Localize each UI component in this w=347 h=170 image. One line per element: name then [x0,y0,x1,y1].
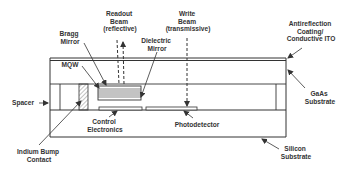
slm-cross-section-diagram: Readout Beam (reflective) Write Beam (tr… [0,0,347,170]
photodetector-label: Photodetector [175,121,220,128]
spacer-label: Spacer [12,99,34,107]
dielectric-mirror-label: Dielectric Mirror [141,37,173,52]
antireflection-label: Antireflection Coating/ Conductive ITO [287,20,336,42]
silicon-substrate-leader [262,139,279,149]
silicon-substrate-label: Silicon Substrate [281,145,312,160]
dielectric-mirror-leader [141,52,157,97]
mqw-mirror-stack [98,86,141,100]
photodetector-pad [146,107,197,110]
silicon-substrate-block [50,110,286,137]
indium-bump-contact [79,84,88,110]
mqw-label: MQW [62,61,80,69]
write-beam-label: Write Beam (transmissive) [166,10,211,33]
indium-bump-label: Indium Bump Contact [17,148,61,163]
photodetector-leader [184,111,193,118]
bragg-mirror-label: Bragg Mirror [60,30,81,45]
control-electronics-pad [99,107,142,110]
bragg-mirror-leader [84,43,106,85]
gaas-substrate-label: GaAs Substrate [305,90,336,105]
gaas-substrate-leader [288,70,305,88]
control-electronics-leader [109,111,117,117]
antireflection-leader [288,48,302,58]
control-electronics-label: Control Electronics [87,118,123,133]
readout-beam-label: Readout Beam (reflective) [103,10,136,33]
readout-beam [117,40,124,84]
